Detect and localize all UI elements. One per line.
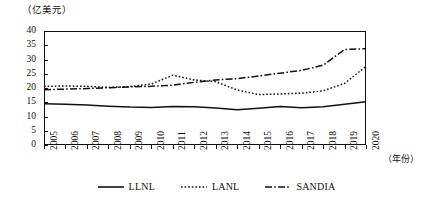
legend-label: SANDIA — [296, 181, 335, 192]
x-tick-mark — [259, 145, 260, 149]
x-tick-mark — [323, 145, 324, 149]
y-tick-label: 15 — [10, 97, 36, 107]
series-sandia — [44, 49, 366, 90]
x-tick-label: 2020 — [371, 131, 381, 150]
y-tick-label: 5 — [10, 126, 36, 136]
legend-item-sandia[interactable]: SANDIA — [265, 181, 335, 192]
x-tick-mark — [44, 145, 45, 149]
legend-label: LLNL — [129, 181, 155, 192]
y-tick-label: 20 — [10, 83, 36, 93]
legend-item-llnl[interactable]: LLNL — [98, 181, 155, 192]
x-axis-title: （年份） — [383, 152, 419, 165]
x-tick-mark — [302, 145, 303, 149]
y-tick-label: 0 — [10, 140, 36, 150]
x-tick-mark — [345, 145, 346, 149]
series-lines — [44, 31, 366, 145]
plot-area — [44, 31, 366, 145]
line-chart: （亿美元） （年份） 0510152025303540 200520062007… — [0, 0, 433, 205]
x-tick-mark — [194, 145, 195, 149]
y-tick-label: 30 — [10, 55, 36, 65]
legend-swatch-solid — [98, 183, 124, 191]
x-tick-mark — [366, 145, 367, 149]
legend-swatch-dotted — [181, 183, 207, 191]
y-tick-label: 40 — [10, 26, 36, 36]
legend-swatch-dashdot — [265, 183, 291, 191]
y-tick-label: 10 — [10, 112, 36, 122]
x-tick-mark — [130, 145, 131, 149]
legend-item-lanl[interactable]: LANL — [181, 181, 239, 192]
x-tick-mark — [173, 145, 174, 149]
x-tick-mark — [108, 145, 109, 149]
x-tick-mark — [87, 145, 88, 149]
x-tick-mark — [65, 145, 66, 149]
legend-label: LANL — [212, 181, 239, 192]
series-llnl — [44, 102, 366, 110]
chart-legend: LLNLLANLSANDIA — [0, 181, 433, 192]
x-tick-mark — [151, 145, 152, 149]
y-tick-label: 35 — [10, 40, 36, 50]
y-axis-title: （亿美元） — [22, 2, 72, 16]
x-tick-mark — [216, 145, 217, 149]
y-tick-label: 25 — [10, 69, 36, 79]
x-tick-mark — [280, 145, 281, 149]
x-tick-mark — [237, 145, 238, 149]
